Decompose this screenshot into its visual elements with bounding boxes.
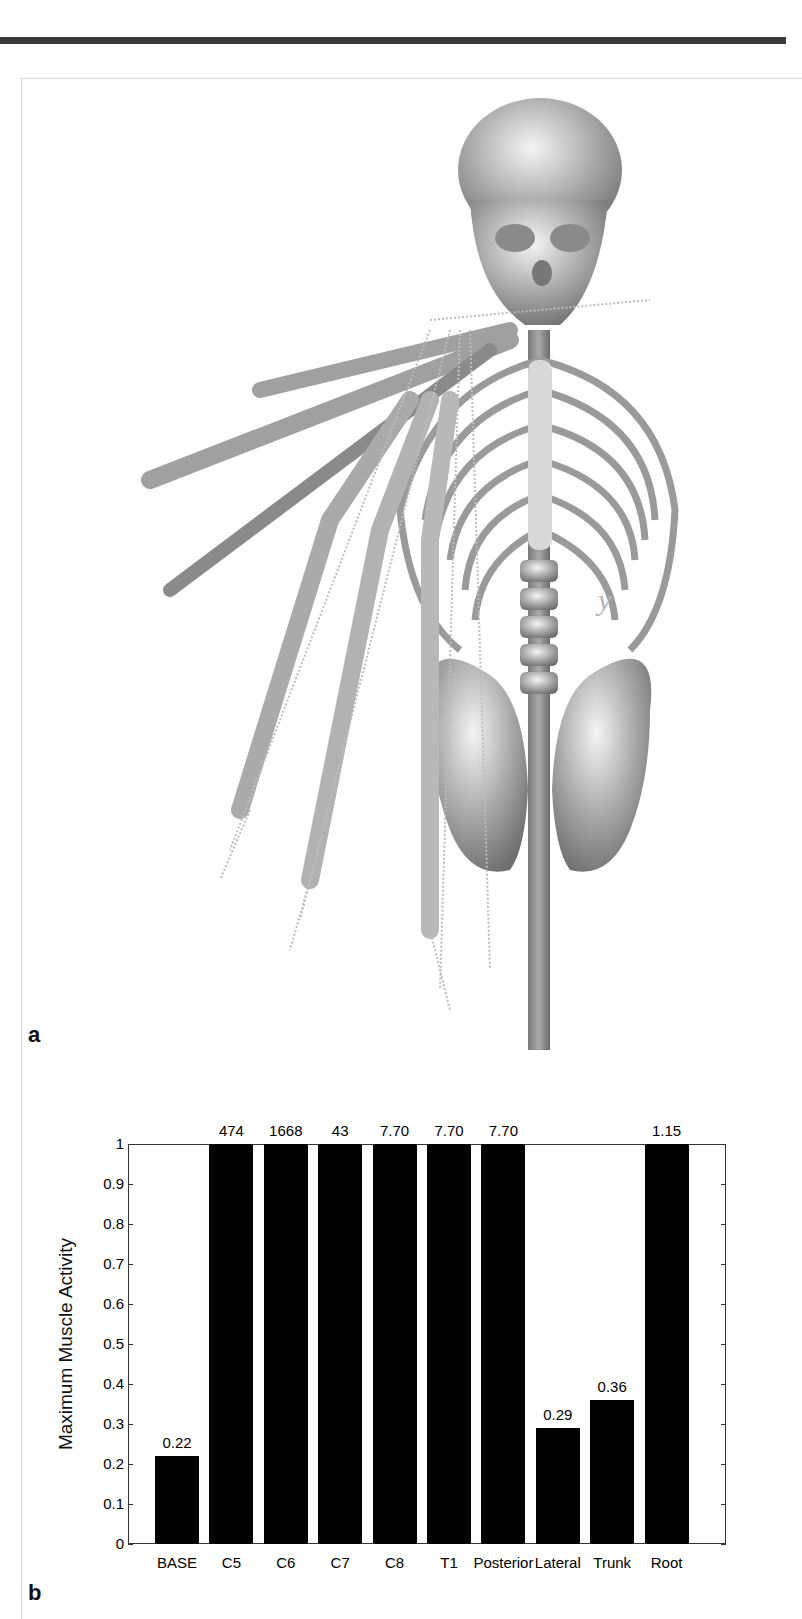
y-tick-label: 1 — [84, 1135, 124, 1152]
y-tick-mark — [128, 1504, 133, 1505]
bar-value-label: 1.15 — [632, 1122, 702, 1139]
y-tick-mark — [721, 1504, 726, 1505]
y-tick-mark — [128, 1224, 133, 1225]
y-tick-label: 0.4 — [84, 1375, 124, 1392]
y-tick-mark — [721, 1224, 726, 1225]
y-tick-mark — [721, 1304, 726, 1305]
y-tick-mark — [721, 1424, 726, 1425]
y-tick-mark — [721, 1384, 726, 1385]
y-tick-mark — [128, 1264, 133, 1265]
y-tick-mark — [128, 1464, 133, 1465]
y-tick-mark — [128, 1184, 133, 1185]
y-tick-label: 0.8 — [84, 1215, 124, 1232]
bar-t1 — [427, 1144, 471, 1544]
y-tick-mark — [128, 1424, 133, 1425]
y-tick-label: 0.1 — [84, 1495, 124, 1512]
y-tick-mark — [128, 1384, 133, 1385]
bar-posterior — [481, 1144, 525, 1544]
x-tick-label: Root — [627, 1554, 707, 1571]
y-tick-mark — [721, 1544, 726, 1545]
y-tick-label: 0.3 — [84, 1415, 124, 1432]
bar-value-label: 0.22 — [142, 1434, 212, 1451]
bar-lateral — [536, 1428, 580, 1544]
y-tick-mark — [128, 1544, 133, 1545]
panel-label-b: b — [28, 1580, 41, 1606]
bar-base — [155, 1456, 199, 1544]
y-tick-mark — [128, 1144, 133, 1145]
bar-c7 — [318, 1144, 362, 1544]
y-tick-label: 0.5 — [84, 1335, 124, 1352]
y-tick-mark — [721, 1184, 726, 1185]
y-tick-label: 0.2 — [84, 1455, 124, 1472]
y-tick-mark — [128, 1304, 133, 1305]
y-tick-label: 0.9 — [84, 1175, 124, 1192]
y-tick-mark — [721, 1464, 726, 1465]
y-tick-label: 0 — [84, 1535, 124, 1552]
bar-c6 — [264, 1144, 308, 1544]
y-tick-label: 0.6 — [84, 1295, 124, 1312]
y-tick-mark — [128, 1344, 133, 1345]
y-tick-mark — [721, 1144, 726, 1145]
bar-value-label: 0.36 — [577, 1378, 647, 1395]
bar-root — [645, 1144, 689, 1544]
bar-c8 — [373, 1144, 417, 1544]
bar-value-label: 0.29 — [523, 1406, 593, 1423]
y-tick-label: 0.7 — [84, 1255, 124, 1272]
y-axis-label: Maximum Muscle Activity — [55, 1194, 77, 1494]
y-tick-mark — [721, 1344, 726, 1345]
bar-trunk — [590, 1400, 634, 1544]
y-tick-mark — [721, 1264, 726, 1265]
bar-c5 — [209, 1144, 253, 1544]
bar-value-label: 7.70 — [468, 1122, 538, 1139]
